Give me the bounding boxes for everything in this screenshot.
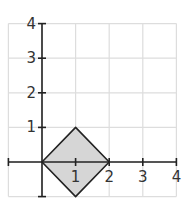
y-tick-label: 1	[26, 118, 36, 136]
coordinate-plot: 1234 1234	[0, 0, 186, 211]
x-tick-label: 3	[138, 168, 148, 186]
y-tick-label: 2	[26, 84, 36, 102]
y-axis-ticks: 1234	[26, 15, 46, 137]
y-tick-label: 4	[26, 15, 36, 33]
x-tick-label: 2	[104, 168, 114, 186]
y-tick-label: 3	[26, 49, 36, 67]
x-tick-label: 1	[71, 168, 81, 186]
x-tick-label: 4	[172, 168, 182, 186]
